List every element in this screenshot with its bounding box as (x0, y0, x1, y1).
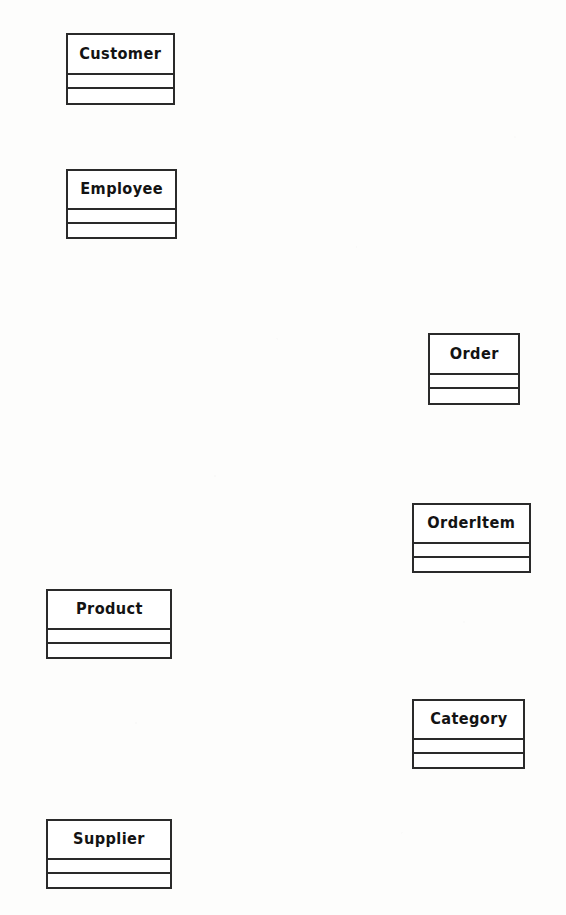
uml-name-compartment: Employee (68, 171, 175, 210)
uml-attributes-compartment (414, 544, 529, 558)
uml-name-compartment: Product (48, 591, 170, 630)
uml-operations-compartment (414, 558, 529, 571)
uml-class-employee[interactable]: Employee (66, 169, 177, 239)
uml-operations-compartment (48, 874, 170, 887)
uml-class-diagram-canvas: CustomerEmployeeOrderOrderItemProductCat… (0, 0, 566, 915)
uml-class-name-label: Employee (80, 182, 163, 197)
uml-name-compartment: Supplier (48, 821, 170, 860)
uml-class-customer[interactable]: Customer (66, 33, 175, 105)
uml-attributes-compartment (414, 740, 523, 754)
uml-class-order[interactable]: Order (428, 333, 520, 405)
uml-class-orderitem[interactable]: OrderItem (412, 503, 531, 573)
uml-attributes-compartment (430, 375, 518, 389)
uml-operations-compartment (68, 89, 173, 103)
uml-attributes-compartment (68, 75, 173, 89)
uml-name-compartment: Order (430, 335, 518, 375)
uml-class-name-label: Customer (80, 47, 162, 62)
uml-class-name-label: Product (76, 602, 143, 617)
uml-class-category[interactable]: Category (412, 699, 525, 769)
uml-name-compartment: OrderItem (414, 505, 529, 544)
uml-class-product[interactable]: Product (46, 589, 172, 659)
uml-class-name-label: Order (450, 347, 499, 362)
uml-operations-compartment (430, 389, 518, 403)
uml-name-compartment: Category (414, 701, 523, 740)
uml-operations-compartment (48, 644, 170, 657)
uml-attributes-compartment (68, 210, 175, 224)
uml-class-supplier[interactable]: Supplier (46, 819, 172, 889)
uml-class-name-label: Category (430, 712, 508, 727)
uml-operations-compartment (68, 224, 175, 237)
uml-class-name-label: Supplier (73, 832, 145, 847)
uml-class-name-label: OrderItem (428, 516, 516, 531)
uml-name-compartment: Customer (68, 35, 173, 75)
uml-operations-compartment (414, 754, 523, 767)
uml-attributes-compartment (48, 630, 170, 644)
uml-attributes-compartment (48, 860, 170, 874)
